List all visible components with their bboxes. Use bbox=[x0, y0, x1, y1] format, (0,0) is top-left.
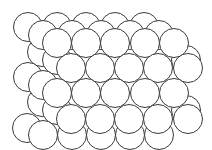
layer-1-front bbox=[43, 29, 203, 134]
sphere bbox=[43, 29, 72, 58]
sphere bbox=[144, 54, 173, 83]
sphere bbox=[72, 79, 101, 108]
sphere bbox=[57, 54, 86, 83]
sphere bbox=[57, 105, 86, 134]
sphere bbox=[174, 54, 203, 83]
sphere bbox=[144, 105, 173, 134]
packing-canvas bbox=[0, 0, 212, 150]
sphere bbox=[29, 121, 58, 150]
sphere bbox=[131, 79, 160, 108]
sphere bbox=[160, 79, 189, 108]
sphere bbox=[115, 105, 144, 134]
sphere bbox=[86, 54, 115, 83]
sphere bbox=[131, 29, 160, 58]
sphere bbox=[160, 29, 189, 58]
sphere bbox=[174, 105, 203, 134]
sphere bbox=[43, 79, 72, 108]
sphere-packing-diagram bbox=[0, 0, 212, 150]
sphere bbox=[86, 105, 115, 134]
sphere bbox=[101, 29, 130, 58]
sphere bbox=[72, 29, 101, 58]
sphere bbox=[101, 79, 130, 108]
sphere bbox=[115, 54, 144, 83]
